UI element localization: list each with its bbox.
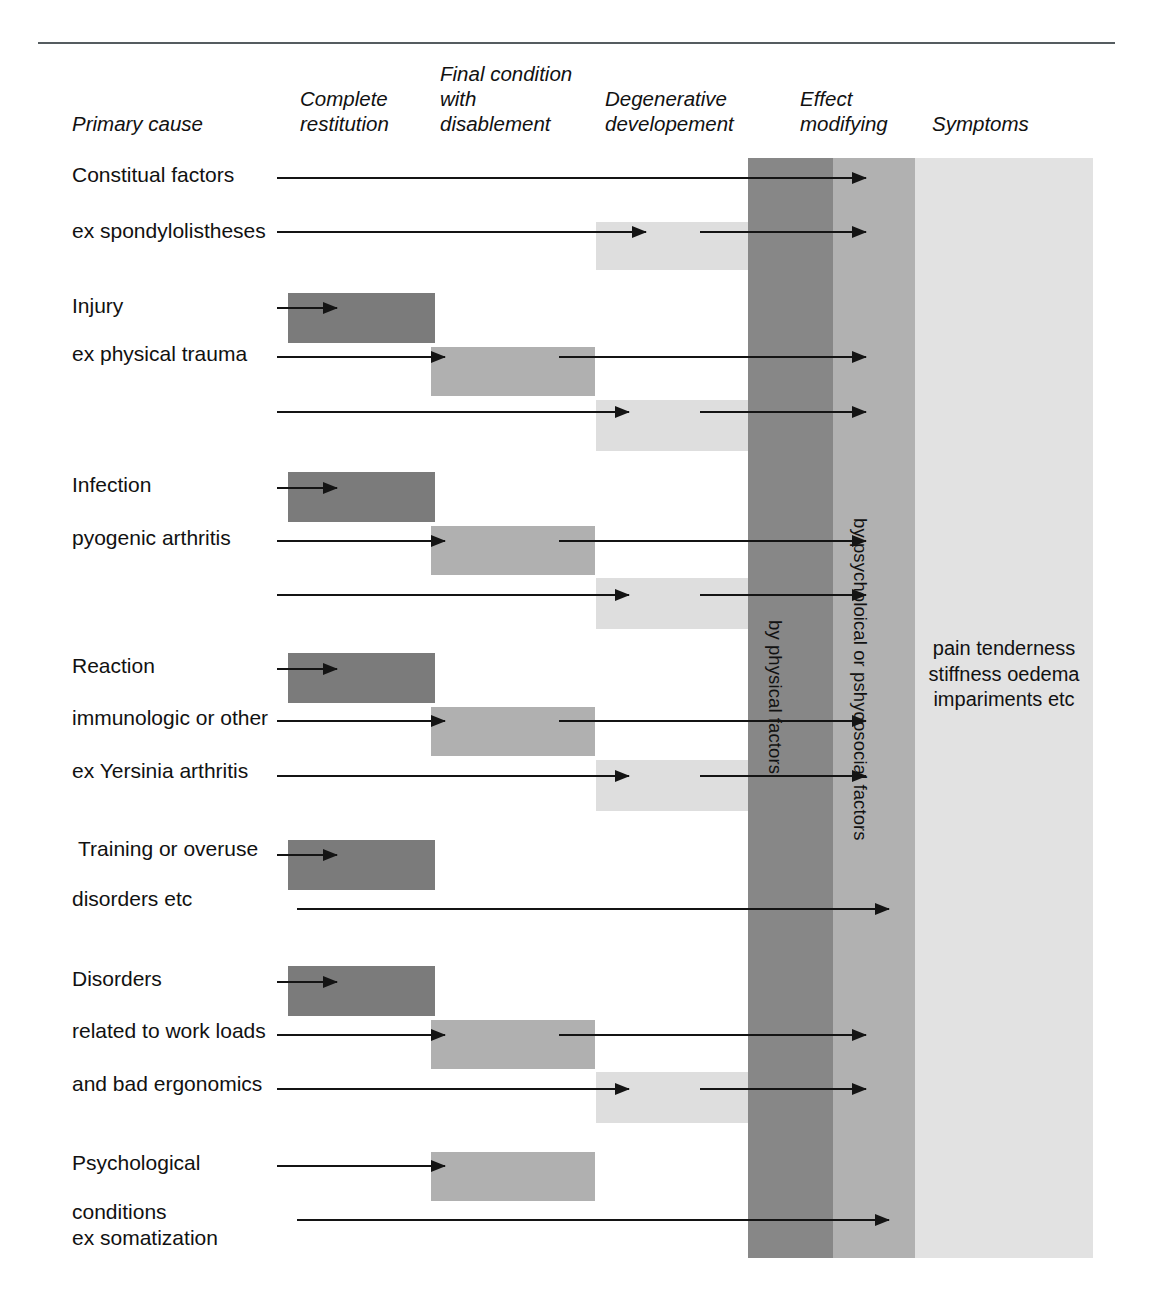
row-label-constitutional-0: Constitual factors: [72, 162, 234, 188]
arrow-pyogenic-final-to-effect: [559, 540, 866, 542]
arrow-pyogenic-to-degen: [277, 594, 629, 596]
stage-box-injury-complete-restitution: [288, 293, 435, 343]
row-label-disorders-1: related to work loads: [72, 1018, 266, 1044]
column-header-primary-cause: Primary cause: [72, 111, 203, 136]
row-label-training-1: disorders etc: [72, 886, 192, 912]
stage-box-reaction-degenerative: [596, 760, 748, 811]
stage-box-training-complete-restitution: [288, 840, 435, 890]
arrow-infection-to-restitution: [277, 487, 337, 489]
arrow-somatization-to-effect: [297, 1219, 889, 1221]
stage-box-infection-final-condition: [431, 526, 595, 575]
arrow-immunologic-final-to-effect: [559, 720, 866, 722]
arrow-injury-to-restitution: [277, 307, 337, 309]
arrow-constitual-to-effect: [277, 177, 866, 179]
row-label-injury-1: ex physical trauma: [72, 341, 247, 367]
arrow-ergonomics-to-degen: [277, 1088, 629, 1090]
row-label-disorders-2: and bad ergonomics: [72, 1071, 262, 1097]
row-label-reaction-2: ex Yersinia arthritis: [72, 758, 248, 784]
band-label-psychosocial-factors: by psycholoical or pshycosocial factors: [849, 518, 871, 841]
row-label-reaction-0: Reaction: [72, 653, 155, 679]
arrow-pyogenic-degen-to-effect: [700, 594, 866, 596]
arrow-immunologic-to-final: [277, 720, 445, 722]
arrow-trauma-final-to-effect: [559, 356, 866, 358]
arrow-trauma-to-degen: [277, 411, 629, 413]
band-physical-factors: [748, 158, 833, 1258]
stage-box-spondylolistheses-degenerative: [596, 222, 748, 270]
band-psychosocial-factors: [833, 158, 915, 1258]
arrow-pyogenic-to-final: [277, 540, 445, 542]
arrow-psychological-to-final: [277, 1165, 445, 1167]
stage-box-infection-complete-restitution: [288, 472, 435, 522]
stage-box-infection-degenerative: [596, 578, 748, 629]
column-header-final-condition: Final condition with disablement: [440, 61, 572, 136]
stage-box-reaction-complete-restitution: [288, 653, 435, 703]
diagram-page: by physical factors by psycholoical or p…: [0, 0, 1150, 1306]
stage-box-disorders-degenerative: [596, 1072, 748, 1123]
arrow-workloads-final-to-effect: [559, 1034, 866, 1036]
column-header-symptoms: Symptoms: [932, 111, 1029, 136]
stage-box-reaction-final-condition: [431, 707, 595, 756]
stage-box-psychological-final-condition: [431, 1152, 595, 1201]
row-label-psychological-0: Psychological: [72, 1150, 200, 1176]
row-label-disorders-0: Disorders: [72, 966, 162, 992]
stage-box-injury-final-condition: [431, 347, 595, 396]
arrow-trauma-degen-to-effect: [700, 411, 866, 413]
column-header-effect-modifying: Effect modifying: [800, 86, 888, 136]
arrow-yersinia-to-degen: [277, 775, 629, 777]
column-header-complete-restitution: Complete restitution: [300, 86, 389, 136]
row-label-infection-0: Infection: [72, 472, 151, 498]
arrow-spondylolistheses-to-degen: [277, 231, 646, 233]
arrow-workloads-to-final: [277, 1034, 445, 1036]
row-label-psychological-1: conditions ex somatization: [72, 1199, 218, 1251]
arrow-disorders-etc-to-effect: [297, 908, 889, 910]
row-label-injury-0: Injury: [72, 293, 123, 319]
arrow-training-to-restitution: [277, 854, 337, 856]
column-header-degenerative: Degenerative developement: [605, 86, 734, 136]
arrow-reaction-to-restitution: [277, 668, 337, 670]
symptoms-list: pain tenderness stiffness oedema imparim…: [915, 636, 1093, 713]
arrow-ergonomics-degen-to-effect: [700, 1088, 866, 1090]
band-label-physical-factors: by physical factors: [764, 620, 786, 774]
row-label-reaction-1: immunologic or other: [72, 705, 268, 731]
arrow-disorders-to-restitution: [277, 981, 337, 983]
arrow-spondylolistheses-to-effect: [700, 231, 866, 233]
row-label-constitutional-1: ex spondylolistheses: [72, 218, 266, 244]
stage-box-disorders-complete-restitution: [288, 966, 435, 1016]
header-divider: [38, 42, 1115, 44]
arrow-trauma-to-final: [277, 356, 445, 358]
row-label-training-0: Training or overuse: [78, 836, 258, 862]
arrow-yersinia-degen-to-effect: [700, 775, 866, 777]
stage-box-disorders-final-condition: [431, 1020, 595, 1069]
row-label-infection-1: pyogenic arthritis: [72, 525, 231, 551]
